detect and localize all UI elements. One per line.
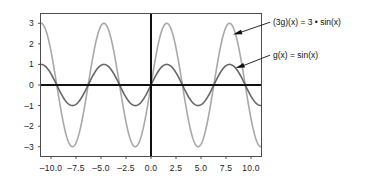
x-tick-label: 2.5 [170,163,182,173]
y-tick-label: 2 [12,39,34,49]
y-tick-label: –2 [12,121,34,131]
y-tick-label: 3 [12,18,34,28]
x-tick-label: 7.5 [220,163,232,173]
chart-figure: 3210–1–2–3 –10.0–7.5–5.0–2.50.02.55.07.5… [0,0,368,189]
x-tick-label: 5.0 [195,163,207,173]
x-tick-label: –5.0 [92,163,109,173]
x-tick-label: –2.5 [117,163,134,173]
annotation-label-sin: g(x) = sin(x) [273,50,318,60]
annotation-label-3sin: (3g)(x) = 3 • sin(x) [273,17,341,27]
x-tick-label: –7.5 [67,163,84,173]
y-tick-label: –1 [12,101,34,111]
x-tick-label: –10.0 [40,163,62,173]
x-tick-label: 10.0 [242,163,259,173]
chart-canvas [0,0,368,189]
y-tick-label: 0 [12,80,34,90]
x-tick-label: 0.0 [145,163,157,173]
y-tick-label: –3 [12,142,34,152]
y-tick-label: 1 [12,59,34,69]
